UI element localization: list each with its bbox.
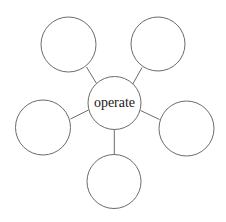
edge-center-left [71, 110, 89, 119]
edge-center-right [141, 111, 160, 120]
node-circle-right[interactable] [159, 101, 214, 156]
center-node-group: operate [88, 77, 141, 130]
node-circle-top-right[interactable] [131, 17, 185, 71]
edge-center-top-left [87, 67, 97, 84]
node-circle-top-left[interactable] [41, 17, 96, 72]
edge-center-top-right [133, 68, 143, 85]
node-circle-left[interactable] [16, 100, 71, 155]
word-web-diagram: operate [0, 0, 226, 222]
center-node-label: operate [94, 95, 135, 110]
node-circle-bottom[interactable] [87, 155, 141, 209]
word-web-canvas: operate [0, 0, 226, 222]
